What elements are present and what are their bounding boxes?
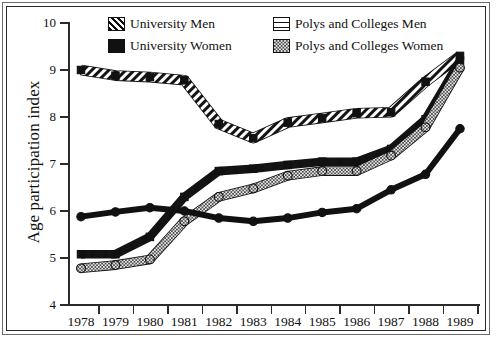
- legend-swatch-checker-icon: [273, 39, 290, 53]
- data-point: [353, 110, 360, 117]
- x-tick-label: 1979: [96, 314, 134, 330]
- x-tick-label: 1985: [303, 314, 341, 330]
- x-tick: [339, 306, 341, 314]
- x-tick: [271, 306, 273, 314]
- x-tick: [133, 306, 135, 314]
- y-tick: [60, 22, 68, 24]
- y-tick: [60, 116, 68, 118]
- data-point: [180, 217, 189, 226]
- data-point: [284, 161, 291, 168]
- chart-figure: Age participation index 45678910 1978197…: [0, 0, 496, 341]
- data-point: [387, 186, 395, 194]
- legend-item-polys-colleges-women: Polys and Colleges Women: [273, 36, 443, 55]
- data-point: [214, 193, 223, 202]
- data-point: [456, 125, 464, 133]
- data-point: [284, 119, 291, 126]
- data-point: [250, 165, 257, 172]
- x-tick: [477, 306, 479, 314]
- x-tick: [374, 306, 376, 314]
- x-tick-label: 1984: [269, 314, 307, 330]
- legend-label: Polys and Colleges Women: [295, 38, 443, 53]
- x-tick-label: 1989: [441, 314, 479, 330]
- data-point: [249, 184, 258, 193]
- data-point: [77, 66, 84, 73]
- data-point: [111, 261, 120, 270]
- data-point: [422, 78, 429, 85]
- y-tick-label: 6: [38, 203, 56, 218]
- data-point: [146, 204, 154, 212]
- data-point: [215, 167, 222, 174]
- data-point: [181, 77, 188, 84]
- data-point: [284, 214, 292, 222]
- data-point: [146, 255, 155, 264]
- x-tick: [236, 306, 238, 314]
- data-point: [456, 63, 465, 72]
- plot-area: [69, 23, 480, 305]
- x-tick: [202, 306, 204, 314]
- data-point: [77, 212, 85, 220]
- x-tick: [167, 306, 169, 314]
- chart-legend: University Men Polys and Colleges Men Un…: [108, 14, 438, 58]
- data-point: [353, 158, 360, 165]
- legend-item-polys-colleges-men: Polys and Colleges Men: [273, 14, 427, 33]
- data-point: [250, 134, 257, 141]
- x-tick-label: 1986: [338, 314, 376, 330]
- legend-swatch-hatch-icon: [108, 17, 125, 31]
- y-tick-label: 10: [38, 15, 56, 30]
- data-point: [215, 214, 223, 222]
- data-point: [318, 158, 325, 165]
- data-point: [112, 251, 119, 258]
- x-tick: [408, 306, 410, 314]
- y-tick-label: 5: [38, 250, 56, 265]
- y-tick-label: 9: [38, 62, 56, 77]
- series-polys-and-colleges-men: [77, 57, 463, 258]
- series-university-men: [77, 52, 463, 142]
- x-tick: [443, 306, 445, 314]
- y-tick: [60, 304, 68, 306]
- data-point: [318, 114, 325, 121]
- data-point: [387, 109, 394, 116]
- y-tick: [60, 257, 68, 259]
- data-point: [421, 123, 430, 132]
- data-point: [215, 120, 222, 127]
- legend-label: University Women: [130, 38, 232, 53]
- data-point: [77, 264, 86, 273]
- data-point: [146, 73, 153, 80]
- series-lines: [69, 23, 480, 305]
- data-point: [318, 208, 326, 216]
- x-tick-label: 1981: [165, 314, 203, 330]
- y-tick-label: 4: [38, 297, 56, 312]
- legend-swatch-hlines-icon: [273, 17, 290, 31]
- x-tick-label: 1983: [234, 314, 272, 330]
- legend-label: Polys and Colleges Men: [295, 16, 427, 31]
- data-point: [387, 151, 396, 160]
- y-tick: [60, 69, 68, 71]
- y-tick: [60, 210, 68, 212]
- x-tick-label: 1982: [200, 314, 238, 330]
- x-tick-label: 1978: [62, 314, 100, 330]
- legend-item-university-women: University Women: [108, 36, 232, 55]
- data-point: [146, 233, 153, 240]
- data-point: [421, 170, 429, 178]
- data-point: [352, 167, 361, 176]
- legend-item-university-men: University Men: [108, 14, 215, 33]
- data-point: [181, 193, 188, 200]
- x-tick-label: 1987: [372, 314, 410, 330]
- legend-label: University Men: [130, 16, 215, 31]
- data-point: [283, 171, 292, 180]
- data-point: [352, 204, 360, 212]
- data-point: [77, 251, 84, 258]
- x-tick-label: 1988: [407, 314, 445, 330]
- x-tick: [305, 306, 307, 314]
- legend-swatch-solid-icon: [108, 39, 125, 53]
- data-point: [112, 72, 119, 79]
- x-tick: [98, 306, 100, 314]
- data-point: [180, 207, 188, 215]
- x-tick-label: 1980: [131, 314, 169, 330]
- data-point: [318, 167, 327, 176]
- data-point: [249, 217, 257, 225]
- y-tick-label: 7: [38, 156, 56, 171]
- y-tick: [60, 163, 68, 165]
- y-tick-label: 8: [38, 109, 56, 124]
- data-point: [111, 208, 119, 216]
